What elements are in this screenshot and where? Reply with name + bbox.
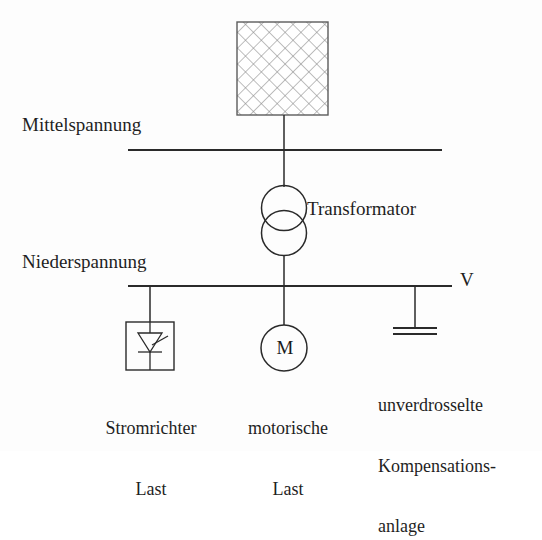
motor-load-label: motorische Last [213,378,363,539]
capacitor-bank-label-line-2: Kompensations- [378,456,496,476]
thyristor-triangle-icon [138,333,162,352]
capacitor-bank-label-line-3: anlage [378,516,496,536]
capacitor-bank-label-line-1: unverdrosselte [378,395,496,415]
motor-symbol-letter: M [265,337,305,359]
medium-voltage-label: Mittelspannung [22,114,141,135]
capacitor-bank-label: unverdrosselte Kompensations- anlage [378,355,496,540]
motor-load-label-line-2: Last [213,479,363,499]
measurement-point-label: V [460,269,474,290]
transformer-label: Transformator [307,198,416,219]
low-voltage-label: Niederspannung [22,251,147,272]
transformer-lower-winding-icon [262,211,307,256]
motor-load-label-line-1: motorische [213,418,363,438]
transformer-upper-winding-icon [262,186,307,231]
network-source-box [237,22,328,115]
